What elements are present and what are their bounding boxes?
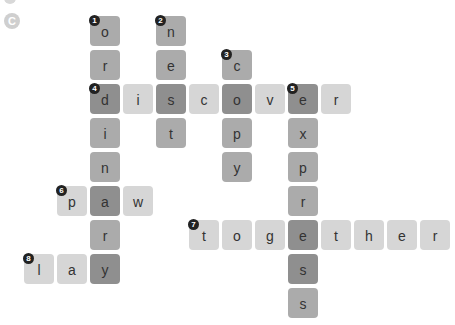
clue-number-badge: 1 bbox=[89, 15, 100, 26]
crossword-tile[interactable]: w bbox=[123, 186, 153, 216]
tile-letter: t bbox=[202, 228, 206, 244]
tile-letter: y bbox=[102, 262, 109, 278]
tile-letter: c bbox=[201, 92, 208, 108]
crossword-tile[interactable]: r bbox=[90, 220, 120, 250]
tile-letter: o bbox=[233, 228, 241, 244]
crossword-tile[interactable]: a bbox=[57, 254, 87, 284]
tile-letter: t bbox=[334, 228, 338, 244]
tile-letter: g bbox=[266, 228, 274, 244]
clue-number-badge: 4 bbox=[89, 83, 100, 94]
tile-letter: p bbox=[68, 194, 76, 210]
crossword-tile[interactable]: o bbox=[222, 220, 252, 250]
crossword-tile[interactable]: n bbox=[90, 152, 120, 182]
cropped-instruction-line bbox=[0, 0, 455, 4]
crossword-tile[interactable]: n2 bbox=[156, 16, 186, 46]
crossword-tile[interactable]: s bbox=[288, 288, 318, 318]
crossword-tile[interactable]: v bbox=[255, 84, 285, 114]
clue-number-badge: 2 bbox=[155, 15, 166, 26]
tile-letter: t bbox=[169, 126, 173, 142]
crossword-tile[interactable]: r bbox=[420, 220, 450, 250]
crossword-tile[interactable]: a bbox=[90, 186, 120, 216]
tile-letter: v bbox=[267, 92, 274, 108]
tile-letter: s bbox=[300, 262, 307, 278]
crossword-tile[interactable]: e bbox=[156, 50, 186, 80]
tile-letter: o bbox=[101, 24, 109, 40]
tile-letter: x bbox=[300, 126, 307, 142]
crossword-tile[interactable]: s bbox=[156, 84, 186, 114]
tile-letter: l bbox=[37, 262, 40, 278]
crossword-tile[interactable]: o bbox=[222, 84, 252, 114]
crossword-tile[interactable]: x bbox=[288, 118, 318, 148]
tile-letter: y bbox=[234, 160, 241, 176]
tile-letter: c bbox=[234, 58, 241, 74]
tile-letter: r bbox=[433, 228, 438, 244]
crossword-tile[interactable]: t bbox=[156, 118, 186, 148]
clue-number-badge: 6 bbox=[56, 185, 67, 196]
tile-letter: e bbox=[167, 58, 175, 74]
crossword-tile[interactable]: c bbox=[189, 84, 219, 114]
tile-letter: i bbox=[136, 92, 139, 108]
tile-letter: n bbox=[167, 24, 175, 40]
tile-letter: i bbox=[103, 126, 106, 142]
crossword-tile[interactable]: d4 bbox=[90, 84, 120, 114]
tile-letter: w bbox=[133, 194, 143, 210]
tile-letter: r bbox=[103, 228, 108, 244]
crossword-tile[interactable]: g bbox=[255, 220, 285, 250]
crossword-tile[interactable]: t7 bbox=[189, 220, 219, 250]
tile-letter: s bbox=[300, 296, 307, 312]
crossword-tile[interactable]: i bbox=[123, 84, 153, 114]
crossword-tile[interactable]: i bbox=[90, 118, 120, 148]
crossword-tile[interactable]: y bbox=[90, 254, 120, 284]
section-c-icon: C bbox=[4, 13, 20, 29]
tile-letter: o bbox=[233, 92, 241, 108]
tile-letter: e bbox=[398, 228, 406, 244]
tile-letter: p bbox=[299, 160, 307, 176]
tile-letter: r bbox=[301, 194, 306, 210]
clue-number-badge: 3 bbox=[221, 49, 232, 60]
tile-letter: a bbox=[101, 194, 109, 210]
clue-number-badge: 5 bbox=[287, 83, 298, 94]
crossword-tile[interactable]: l8 bbox=[24, 254, 54, 284]
crossword-tile[interactable]: t bbox=[321, 220, 351, 250]
crossword-tile[interactable]: y bbox=[222, 152, 252, 182]
crossword-tile[interactable]: p bbox=[222, 118, 252, 148]
clue-number-badge: 7 bbox=[188, 219, 199, 230]
crossword-tile[interactable]: s bbox=[288, 254, 318, 284]
crossword-tile[interactable]: r bbox=[321, 84, 351, 114]
crossword-tile[interactable]: r bbox=[90, 50, 120, 80]
tile-letter: p bbox=[233, 126, 241, 142]
crossword-tile[interactable]: e bbox=[288, 220, 318, 250]
tile-letter: h bbox=[365, 228, 373, 244]
crossword-tile[interactable]: p bbox=[288, 152, 318, 182]
tile-letter: s bbox=[168, 92, 175, 108]
crossword-tile[interactable]: p6 bbox=[57, 186, 87, 216]
tile-letter: n bbox=[101, 160, 109, 176]
clue-number-badge: 8 bbox=[23, 253, 34, 264]
tile-letter: d bbox=[101, 92, 109, 108]
crossword-tile[interactable]: c3 bbox=[222, 50, 252, 80]
tile-letter: a bbox=[68, 262, 76, 278]
crossword-tile[interactable]: e5 bbox=[288, 84, 318, 114]
crossword-tile[interactable]: e bbox=[387, 220, 417, 250]
tile-letter: r bbox=[103, 58, 108, 74]
tile-letter: r bbox=[334, 92, 339, 108]
crossword-tile[interactable]: o1 bbox=[90, 16, 120, 46]
tile-letter: e bbox=[299, 92, 307, 108]
crossword-tile[interactable]: h bbox=[354, 220, 384, 250]
crossword-tile[interactable]: r bbox=[288, 186, 318, 216]
tile-letter: e bbox=[299, 228, 307, 244]
bullet-icon bbox=[4, 0, 16, 4]
